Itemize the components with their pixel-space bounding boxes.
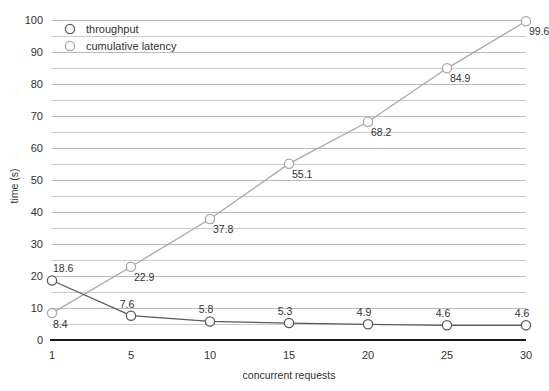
data-point-label: 22.9 <box>134 271 155 283</box>
y-tick-label: 30 <box>31 238 43 250</box>
y-tick-label: 40 <box>31 206 43 218</box>
data-point-label: 4.6 <box>515 307 530 319</box>
x-tick-label: 1 <box>49 349 55 361</box>
data-point-label: 8.4 <box>53 318 68 330</box>
gridlines-group <box>52 20 526 340</box>
y-tick-label: 0 <box>37 334 43 346</box>
data-point-label: 5.8 <box>199 303 214 315</box>
y-tick-label: 20 <box>31 270 43 282</box>
y-tick-label: 80 <box>31 78 43 90</box>
series-cumulative-latency <box>47 17 530 318</box>
x-tick-label: 20 <box>362 349 374 361</box>
data-point-labels: 18.67.65.85.34.94.64.68.422.937.855.168.… <box>53 25 549 330</box>
x-tick-label: 30 <box>520 349 532 361</box>
y-tick-label: 60 <box>31 142 43 154</box>
y-axis-title: time (s) <box>8 169 20 204</box>
legend: throughputcumulative latency <box>65 23 177 52</box>
data-point-marker <box>126 311 135 320</box>
data-point-marker <box>47 276 56 285</box>
x-tick-label: 25 <box>441 349 453 361</box>
data-point-label: 37.8 <box>213 223 234 235</box>
y-tick-label: 50 <box>31 174 43 186</box>
data-point-marker <box>205 317 214 326</box>
y-tick-label: 10 <box>31 302 43 314</box>
data-point-marker <box>363 320 372 329</box>
data-point-label: 84.9 <box>450 72 471 84</box>
data-point-label: 55.1 <box>292 168 313 180</box>
data-point-marker <box>284 318 293 327</box>
legend-marker-icon <box>65 41 74 50</box>
y-axis-tick-labels: 0102030405060708090100 <box>25 14 43 346</box>
data-point-marker <box>521 321 530 330</box>
y-tick-label: 100 <box>25 14 43 26</box>
data-point-label: 68.2 <box>371 126 392 138</box>
x-tick-label: 15 <box>283 349 295 361</box>
y-tick-label: 70 <box>31 110 43 122</box>
data-point-label: 18.6 <box>53 262 74 274</box>
data-point-label: 7.6 <box>120 298 135 310</box>
line-chart: 0102030405060708090100 151015202530 18.6… <box>0 0 549 391</box>
legend-marker-icon <box>65 24 74 33</box>
data-point-label: 99.6 <box>529 25 549 37</box>
x-axis-title: concurrent requests <box>243 369 336 381</box>
data-point-label: 5.3 <box>278 305 293 317</box>
y-tick-label: 90 <box>31 46 43 58</box>
data-point-marker <box>442 321 451 330</box>
chart-container: 0102030405060708090100 151015202530 18.6… <box>0 0 549 391</box>
legend-label: cumulative latency <box>86 40 177 52</box>
x-tick-label: 5 <box>128 349 134 361</box>
data-point-label: 4.6 <box>436 307 451 319</box>
data-point-label: 4.9 <box>357 306 372 318</box>
legend-label: throughput <box>86 23 139 35</box>
data-point-marker <box>47 309 56 318</box>
x-tick-label: 10 <box>204 349 216 361</box>
x-axis-tick-labels: 151015202530 <box>49 349 532 361</box>
